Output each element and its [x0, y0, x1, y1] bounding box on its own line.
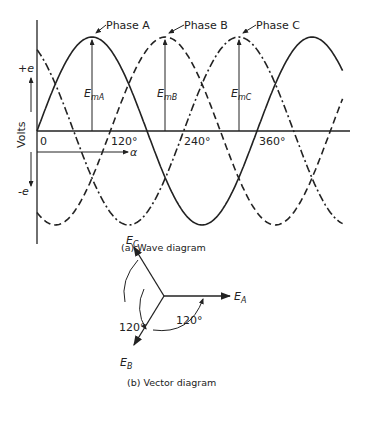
phase-c-label: Phase C — [256, 19, 300, 32]
tick-0: 0 — [40, 135, 47, 148]
angle-label-2: 120° — [176, 314, 203, 327]
ea-label: EA — [234, 290, 246, 305]
emb-label: EmB — [157, 87, 177, 102]
alpha-label: α — [130, 146, 138, 159]
vector-diagram: 120° 120° EA EB EC — [119, 234, 246, 371]
phase-a-label: Phase A — [106, 19, 150, 32]
ema-label: EmA — [84, 87, 104, 102]
tick-240: 240° — [184, 135, 211, 148]
angle-label-1: 120° — [119, 321, 146, 334]
emc-label: EmC — [231, 87, 252, 102]
vector-caption: (b) Vector diagram — [127, 377, 216, 388]
three-phase-figure: Phase A Phase B Phase C EmA EmB EmC 0 12… — [0, 0, 368, 423]
ec-label: EC — [126, 234, 139, 249]
eb-label: EB — [120, 356, 132, 371]
phase-b-label: Phase B — [184, 19, 228, 32]
volts-label: Volts — [15, 121, 28, 148]
minus-e-label: -e — [18, 185, 29, 198]
tick-360: 360° — [259, 135, 286, 148]
plus-e-label: +e — [18, 62, 34, 75]
